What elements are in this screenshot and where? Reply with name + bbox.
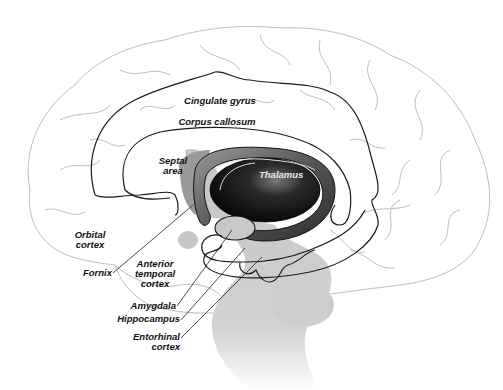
label-orbital-cortex: Orbital cortex: [70, 230, 110, 250]
label-fornix: Fornix: [78, 268, 112, 278]
label-amygdala: Amygdala: [118, 301, 176, 311]
label-septal-area: Septal area: [156, 156, 190, 176]
label-cingulate-gyrus: Cingulate gyrus: [178, 96, 262, 106]
label-anterior-temporal-cortex: Anterior temporal cortex: [130, 259, 180, 289]
brain-illustration: [0, 0, 503, 390]
limbic-system-diagram: Cingulate gyrus Corpus callosum Septal a…: [0, 0, 503, 390]
label-corpus-callosum: Corpus callosum: [172, 117, 262, 127]
label-thalamus: Thalamus: [259, 170, 303, 180]
amygdala-shape: [215, 216, 255, 240]
label-hippocampus: Hippocampus: [108, 314, 180, 324]
label-entorhinal-cortex: Entorhinal cortex: [122, 332, 180, 352]
thalamus-shape: [210, 158, 320, 222]
